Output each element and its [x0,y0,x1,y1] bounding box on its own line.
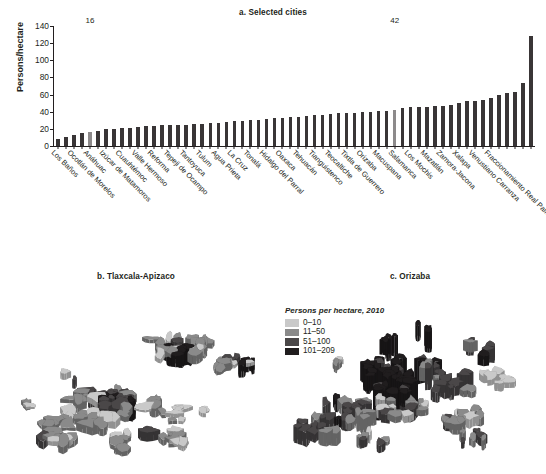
bar-slot [294,26,302,146]
bar [64,137,68,146]
bar-slot [319,26,327,146]
y-tick-mark [50,112,53,113]
bar-slot [455,26,463,146]
y-tick-mark [50,129,53,130]
bar [489,98,493,146]
map-region [171,351,184,367]
bar-slot [262,26,270,146]
panel-b-tlaxcala-apizaco: b. Tlaxcala-Apizaco [0,272,272,474]
bar-slot [487,26,495,146]
bar-slot [367,26,375,146]
y-tick-label: 80 [40,73,49,81]
bar-slot [399,26,407,146]
y-tick-label: 40 [40,108,49,116]
panel-a-title: a. Selected cities [0,8,546,17]
bar-slot [54,26,62,146]
map-region [481,434,486,451]
bar [176,125,180,146]
bar [80,133,84,146]
legend-label: 11–50 [303,328,325,336]
bar [217,123,221,146]
legend-label: 51–100 [303,338,330,346]
legend-item: 0–10 [285,318,415,328]
bar [385,111,389,146]
map-region [469,432,476,447]
bar [152,126,156,146]
bar [321,115,325,146]
y-tick-mark [50,146,53,147]
bar-slot [94,26,102,146]
legend-label: 101–209 [303,347,335,355]
bar-slot [78,26,86,146]
bar [112,129,116,146]
bar-slot [439,26,447,146]
bar [529,36,533,146]
bar [273,118,277,146]
bar-slot: 16 [86,26,94,146]
bar-slot [431,26,439,146]
bar-slot [383,26,391,146]
bar-chart-plot-area: 020406080100120140 1642 [53,26,535,146]
x-axis-line [53,146,535,147]
map-tlaxcala-apizaco [0,290,272,474]
bar [369,112,373,146]
map-region [463,339,477,352]
bar [168,125,172,146]
bar [184,125,188,146]
bar [513,92,517,146]
bar [409,107,413,146]
bar-slot [351,26,359,146]
map-region [72,375,76,389]
bar [345,113,349,146]
legend-item: 11–50 [285,328,415,338]
y-axis-label: Persons/hectare [15,0,25,117]
bar [104,129,108,146]
bar [377,111,381,146]
map-region [417,406,429,416]
bar [249,120,253,146]
map-region [494,380,503,391]
bar [257,120,261,146]
bar [96,131,100,146]
map-region [61,368,71,380]
y-tick-mark [50,43,53,44]
bar-slot [270,26,278,146]
x-axis-labels: Los BañosOcotlán de MorelosAnáhuacIzúcar… [53,148,543,248]
legend-swatch [285,329,299,337]
bar-slot [62,26,70,146]
map-region [431,384,441,403]
bar-value-label: 16 [86,16,95,25]
map-region [319,429,333,447]
bar-slot [230,26,238,146]
bar [337,113,341,146]
bar-slot [527,26,535,146]
bar [401,108,405,146]
bar [72,135,76,146]
bar-slot [278,26,286,146]
map-region [117,443,131,457]
panel-c-title: c. Orizaba [274,272,546,281]
bar [433,106,437,146]
bar-slot [174,26,182,146]
bar [305,116,309,146]
panel-a-selected-cities: a. Selected cities Persons/hectare 02040… [0,0,546,258]
legend-item: 51–100 [285,337,415,347]
bar-slot [511,26,519,146]
bar-slot [415,26,423,146]
bar [200,124,204,146]
bar-series: 1642 [54,26,535,146]
bar-slot [102,26,110,146]
map-region [461,437,465,449]
bar-slot [70,26,78,146]
y-tick-label: 60 [40,90,49,98]
bar [313,115,317,146]
y-tick-mark [50,77,53,78]
bar-slot [206,26,214,146]
y-tick-mark [50,95,53,96]
bar-slot [134,26,142,146]
bar [481,100,485,146]
bar-slot [407,26,415,146]
y-tick-label: 20 [40,125,49,133]
bar-slot [254,26,262,146]
map-region [478,349,489,366]
